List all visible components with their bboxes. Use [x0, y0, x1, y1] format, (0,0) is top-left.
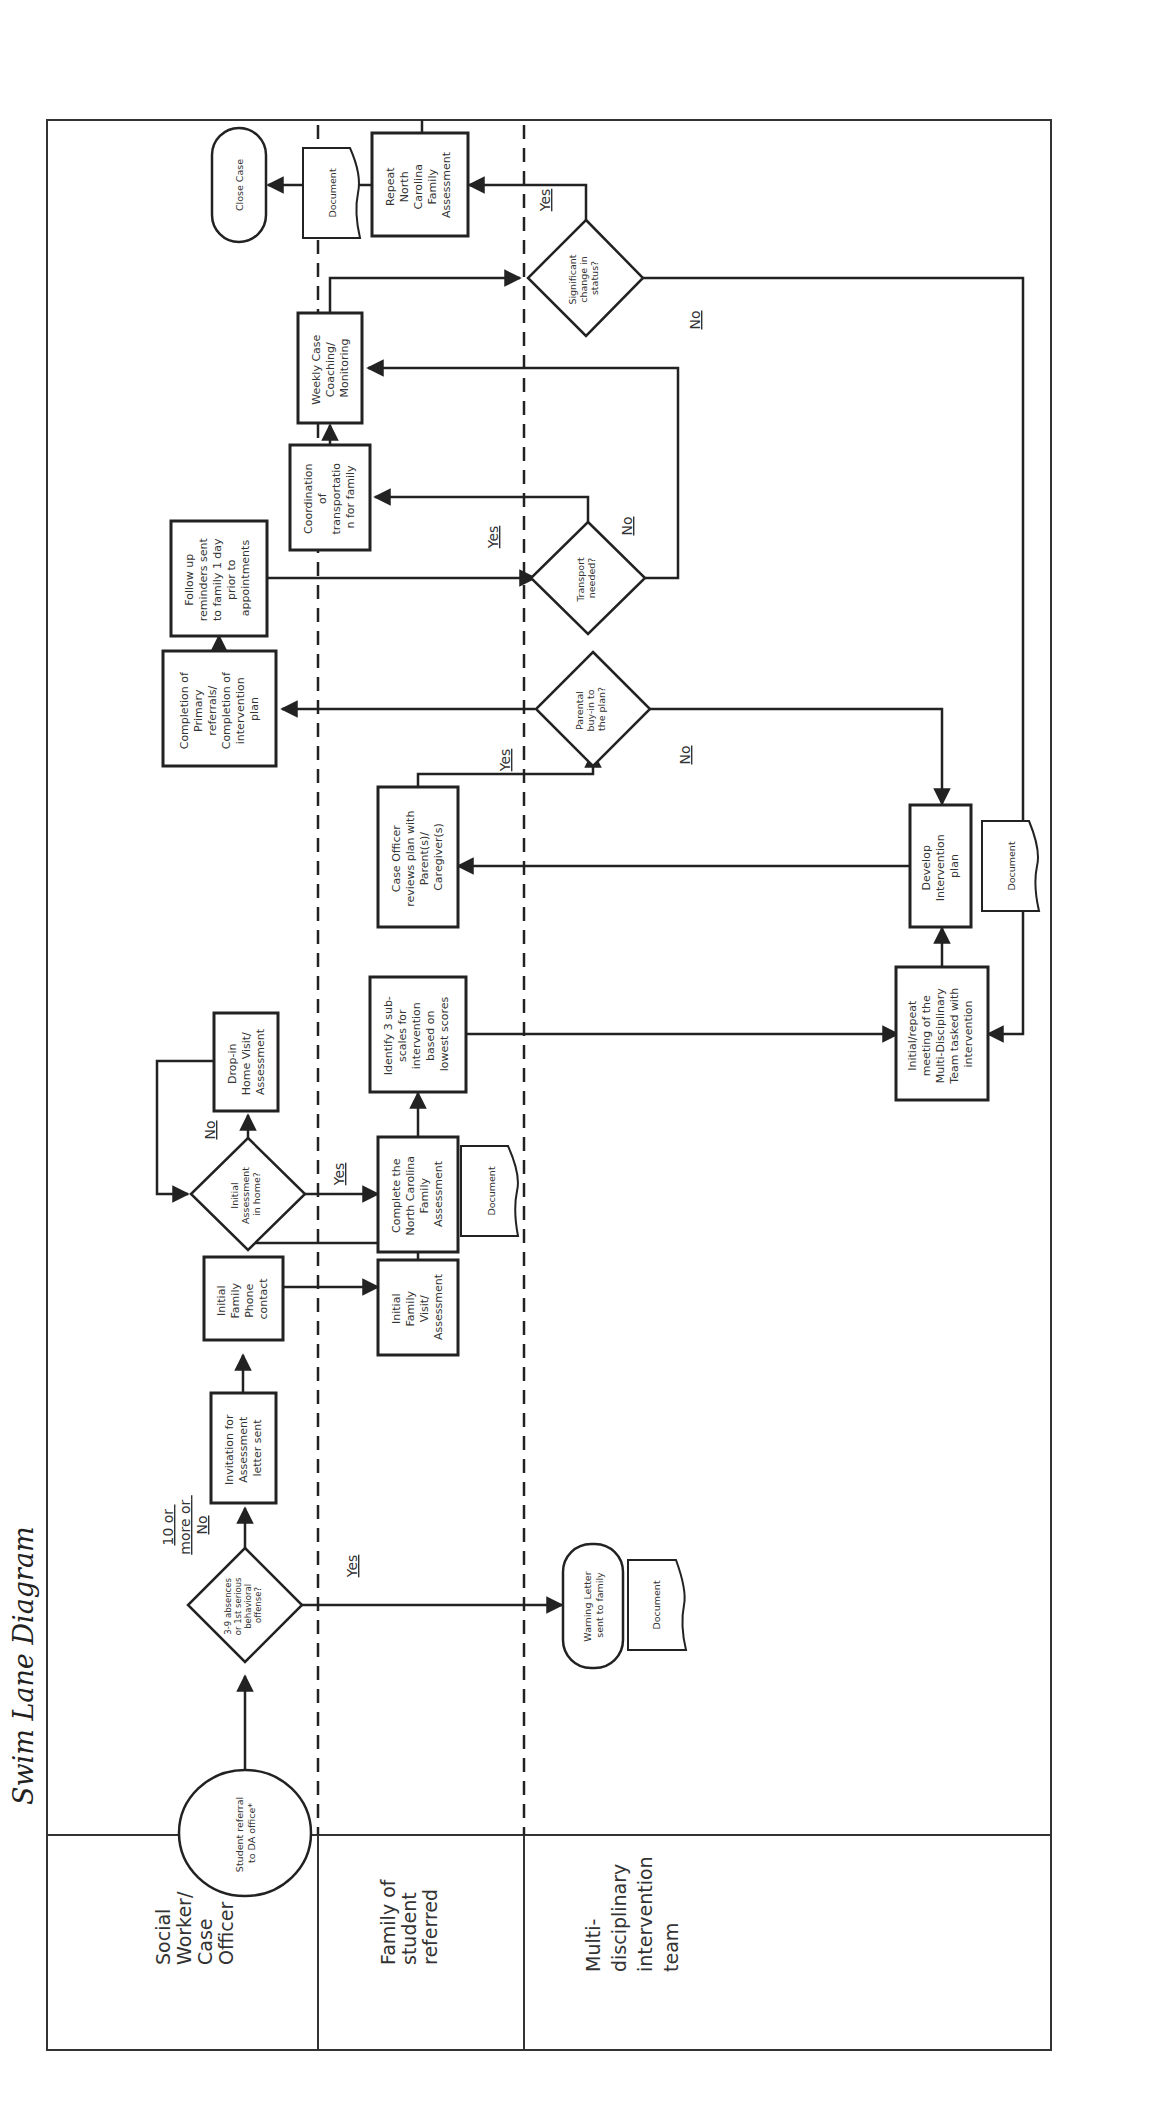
svg-text:Identify 3 sub- scales f: Identify 3 sub- scales for intervention … — [382, 993, 451, 1076]
node-completion-of-referrals: Completion of Primary referrals/ Complet… — [163, 651, 276, 766]
label-absences-yes: Yes — [344, 1555, 360, 1579]
node-weekly-case-coaching: Weekly Case Coaching/ Monitoring — [298, 313, 362, 423]
terminator-warning-letter: Warning Letter sent to family — [563, 1544, 623, 1668]
svg-text:Document: Document — [651, 1580, 662, 1629]
node-invitation-letter: Invitation for Assessment letter sent — [211, 1393, 276, 1503]
lane-header-mdt: Multi- disciplinary intervention team — [582, 1850, 682, 1972]
node-follow-up-reminders: Follow up reminders sent to family 1 day… — [171, 521, 267, 636]
terminator-close-case: Close Case — [212, 128, 266, 242]
label-transport-yes: Yes — [485, 526, 501, 550]
svg-text:Document: Document — [486, 1166, 497, 1215]
document-intervention-plan: Document — [982, 821, 1039, 911]
node-phone-contact: Initial Family Phone contact — [204, 1257, 283, 1340]
svg-text:Transport needed?: Transport needed? — [575, 554, 597, 603]
node-case-officer-review: Case Officer reviews plan with Parent(s)… — [378, 787, 458, 927]
svg-text:Warning Letter sent to f: Warning Letter sent to family — [582, 1568, 605, 1641]
document-ncfa: Document — [461, 1146, 518, 1236]
swim-lane-diagram: Social Worker/ Case Officer Family of st… — [0, 0, 1157, 2109]
svg-text:Parental buy-in to: Parental buy-in to the plan? — [574, 686, 607, 731]
label-change-no: No — [687, 310, 703, 329]
lane-header-family: Family of student referred — [377, 1873, 441, 1965]
lane-header-social-worker: Social Worker/ Case Officer — [152, 1886, 237, 1965]
decision-transport-needed: Transport needed? — [531, 522, 645, 634]
label-buyin-no: No — [677, 745, 693, 764]
label-inhome-yes: Yes — [331, 1163, 347, 1187]
svg-text:Document: Document — [1006, 841, 1017, 890]
decision-absences: 3-9 absences or 1st serious behavioral o… — [188, 1548, 302, 1662]
label-absences-no: 10 or more or No — [160, 1495, 210, 1555]
label-inhome-no: No — [202, 1120, 218, 1139]
node-mdt-meeting: Initial/repeat meeting of the Multi-Disc… — [896, 967, 988, 1100]
node-identify-subscales: Identify 3 sub- scales for intervention … — [370, 977, 466, 1092]
document-warning-letter: Document — [628, 1560, 686, 1650]
node-develop-intervention-plan: Develop Intervention plan — [910, 805, 971, 927]
svg-text:Social Worker/ Cas: Social Worker/ Case Officer — [152, 1886, 237, 1965]
node-coordination-transportation: Coordination of transportatio n for fami… — [290, 445, 370, 550]
document-repeat-ncfa: Document — [303, 148, 360, 238]
node-repeat-ncfa: Repeat North Carolina Family Assessment — [372, 133, 468, 236]
node-student-referral: Student referral to DA office* — [179, 1770, 311, 1896]
decision-parental-buy-in: Parental buy-in to the plan? — [536, 652, 650, 766]
node-complete-ncfa: Complete the North Carolina Family Asses… — [378, 1137, 458, 1252]
svg-text:Document: Document — [327, 168, 338, 217]
svg-text:Family of student: Family of student referred — [377, 1873, 441, 1965]
svg-text:Coordination of tr: Coordination of transportatio n for fami… — [302, 459, 357, 534]
node-drop-in-home-visit: Drop-in Home Visit/ Assessment — [214, 1013, 278, 1111]
svg-text:Invitation for Assessmen: Invitation for Assessment letter sent — [223, 1411, 264, 1485]
svg-text:Multi- disciplinary: Multi- disciplinary intervention team — [582, 1850, 682, 1972]
svg-text:Close Case: Close Case — [234, 159, 245, 211]
svg-text:Weekly Case Coaching/: Weekly Case Coaching/ Monitoring — [310, 331, 351, 405]
svg-text:Student referral to DA o: Student referral to DA office* — [234, 1794, 257, 1872]
node-initial-family-visit: Initial Family Visit/ Assessment — [378, 1260, 458, 1355]
decision-significant-change: Significant change in status? — [528, 220, 643, 336]
label-change-yes: Yes — [537, 189, 553, 213]
decision-assessment-in-home: Initial Assessment in home? — [191, 1138, 305, 1250]
label-transport-no: No — [619, 516, 635, 535]
svg-text:Initial Family Pho: Initial Family Phone contact — [215, 1278, 270, 1320]
label-buyin-yes: Yes — [497, 749, 513, 773]
